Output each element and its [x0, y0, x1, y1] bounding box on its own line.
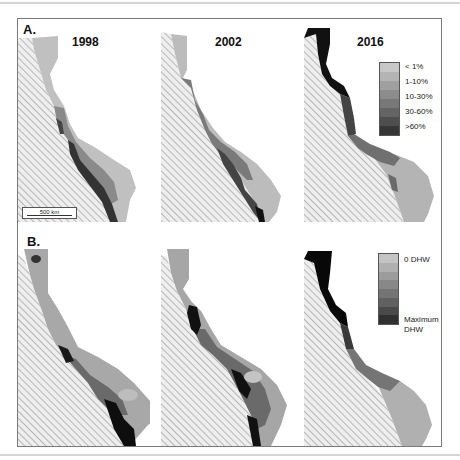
- legend-swatch: [380, 117, 399, 126]
- legend-b-label-top: 0 DHW: [404, 255, 430, 264]
- reef-hotspot: [31, 255, 41, 263]
- scale-bar-line: [27, 215, 72, 216]
- legend-swatch: [379, 307, 398, 316]
- legend-swatch: [379, 263, 398, 272]
- legend-swatch: [379, 280, 398, 289]
- reef-light-blob: [244, 371, 262, 383]
- legend-dhw-colorbar: [378, 253, 399, 325]
- legend-dhw-swatches: [379, 254, 398, 324]
- map-a-2002: [161, 30, 291, 222]
- panel-label-b: B.: [27, 234, 40, 249]
- page-top-rule: [0, 2, 460, 4]
- legend-swatch: [379, 254, 398, 263]
- legend-a-label-1-10: 1-10%: [405, 77, 428, 86]
- legend-swatch: [380, 63, 399, 72]
- legend-bleaching-colorbar: [379, 62, 400, 136]
- legend-swatch: [380, 108, 399, 117]
- legend-swatch: [379, 315, 398, 324]
- legend-bleaching-swatches: [380, 63, 399, 135]
- legend-swatch: [380, 99, 399, 108]
- legend-a-label-lt1: < 1%: [405, 62, 423, 71]
- legend-swatch: [380, 81, 399, 90]
- page-bottom-rule: [0, 454, 460, 456]
- legend-swatch: [379, 298, 398, 307]
- reef-light-blob: [118, 389, 138, 401]
- legend-swatch: [380, 72, 399, 81]
- map-b-2016: [304, 249, 442, 446]
- map-a-1998: [18, 30, 150, 222]
- legend-b-label-bottom-1: Maximum: [404, 315, 439, 324]
- legend-a-label-gt60: >60%: [405, 122, 426, 131]
- legend-b-label-bottom-2: DHW: [404, 325, 423, 334]
- legend-swatch: [380, 126, 399, 135]
- legend-swatch: [380, 90, 399, 99]
- map-b-2002: [161, 249, 291, 446]
- legend-swatch: [379, 289, 398, 298]
- legend-a-label-30-60: 30-60%: [405, 107, 433, 116]
- map-b-1998: [18, 249, 150, 446]
- legend-a-label-10-30: 10-30%: [405, 92, 433, 101]
- scale-bar: 500 km: [22, 207, 77, 219]
- legend-swatch: [379, 272, 398, 281]
